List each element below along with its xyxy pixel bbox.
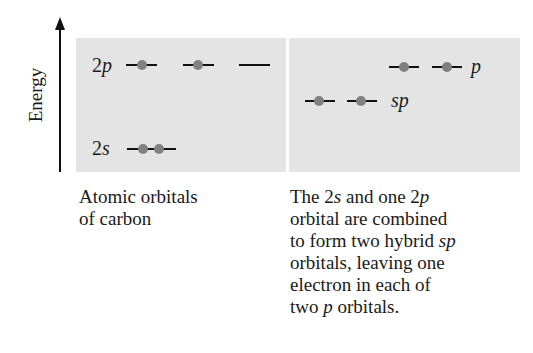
right-caption: The 2s and one 2p orbital are combined t… — [290, 186, 456, 318]
electron — [399, 62, 409, 72]
electron — [193, 60, 203, 70]
level-label-2p: 2p — [92, 55, 112, 75]
electron — [138, 144, 148, 154]
orbital-2p-3 — [239, 64, 270, 66]
energy-axis-label: Energy — [25, 68, 47, 123]
electron — [154, 144, 164, 154]
left-caption: Atomic orbitals of carbon — [79, 186, 198, 230]
level-label-p: p — [471, 56, 481, 76]
electron — [356, 96, 366, 106]
electron — [442, 62, 452, 72]
level-label-2s: 2s — [92, 138, 110, 158]
electron — [314, 96, 324, 106]
level-label-sp: sp — [391, 90, 409, 110]
electron — [137, 60, 147, 70]
energy-axis — [59, 22, 61, 172]
orbital-2s — [127, 148, 176, 150]
